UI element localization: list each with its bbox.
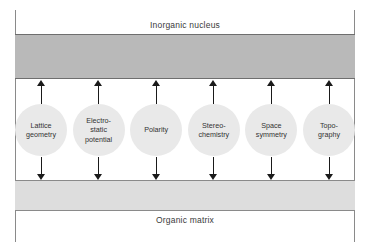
- arrow-head: [209, 174, 217, 180]
- property-node: Stereo- chemistry: [188, 104, 240, 156]
- property-node-label: Polarity: [143, 125, 169, 135]
- arrow-shaft: [213, 85, 214, 104]
- arrow-down-icon: [267, 157, 276, 180]
- arrow-down-icon: [325, 157, 334, 180]
- property-node: Electro- static potential: [73, 104, 125, 156]
- organic-matrix-band: [15, 180, 355, 211]
- property-node-label: Electro- static potential: [84, 116, 113, 145]
- arrow-down-icon: [37, 157, 46, 180]
- arrow-up-icon: [94, 80, 103, 104]
- arrow-shaft: [98, 85, 99, 104]
- arrow-up-icon: [209, 80, 218, 104]
- arrow-shaft: [329, 85, 330, 104]
- arrow-head: [152, 80, 160, 86]
- property-node-label: Topo- graphy: [317, 121, 341, 140]
- property-node-row: Lattice geometryElectro- static potentia…: [15, 104, 355, 156]
- arrow-shaft: [271, 157, 272, 175]
- arrow-down-icon: [94, 157, 103, 180]
- arrow-head: [37, 174, 45, 180]
- arrow-shaft: [156, 85, 157, 104]
- arrow-shaft: [156, 157, 157, 175]
- arrow-head: [37, 80, 45, 86]
- arrow-head: [209, 80, 217, 86]
- arrow-shaft: [329, 157, 330, 175]
- arrow-shaft: [213, 157, 214, 175]
- property-node-label: Stereo- chemistry: [197, 121, 230, 140]
- property-node: Topo- graphy: [303, 104, 355, 156]
- arrow-up-icon: [37, 80, 46, 104]
- inorganic-nucleus-band: [15, 34, 355, 79]
- property-node: Polarity: [130, 104, 182, 156]
- arrow-head: [94, 174, 102, 180]
- property-node-label: Lattice geometry: [25, 121, 57, 140]
- organic-matrix-label: Organic matrix: [15, 215, 355, 225]
- arrow-shaft: [98, 157, 99, 175]
- arrow-up-icon: [152, 80, 161, 104]
- recognition-interface-diagram: Inorganic nucleus Lattice geometryElectr…: [0, 0, 370, 252]
- inorganic-nucleus-label: Inorganic nucleus: [15, 20, 355, 30]
- arrow-down-icon: [152, 157, 161, 180]
- arrow-shaft: [41, 157, 42, 175]
- arrow-shaft: [271, 85, 272, 104]
- arrow-shaft: [41, 85, 42, 104]
- arrow-head: [94, 80, 102, 86]
- arrow-head: [325, 174, 333, 180]
- arrow-up-icon: [325, 80, 334, 104]
- arrow-head: [267, 174, 275, 180]
- property-node: Lattice geometry: [15, 104, 67, 156]
- property-node: Space symmetry: [245, 104, 297, 156]
- arrow-head: [152, 174, 160, 180]
- property-node-label: Space symmetry: [255, 121, 288, 140]
- arrow-head: [267, 80, 275, 86]
- arrow-head: [325, 80, 333, 86]
- arrow-down-icon: [209, 157, 218, 180]
- arrow-up-icon: [267, 80, 276, 104]
